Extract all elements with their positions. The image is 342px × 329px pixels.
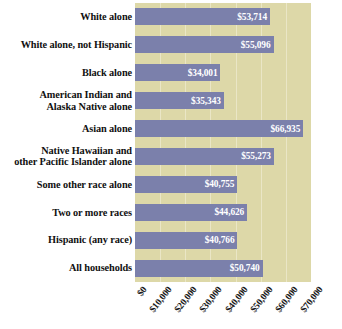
- category-label: Asian alone: [0, 123, 132, 134]
- category-label-line: White alone, not Hispanic: [0, 39, 132, 50]
- bar: $40,755: [135, 176, 237, 193]
- bar-value-label: $40,766: [205, 235, 235, 245]
- category-label-line: Some other race alone: [0, 179, 132, 190]
- category-label-line: Two or more races: [0, 207, 132, 218]
- chart-row: Native Hawaiian andother Pacific Islande…: [0, 143, 342, 171]
- x-tick-label: $0: [134, 284, 148, 298]
- x-tick-label: $40,000: [222, 284, 249, 314]
- x-tick-label: $30,000: [197, 284, 224, 314]
- bar: $55,096: [135, 36, 274, 53]
- bar-value-label: $35,343: [191, 96, 221, 106]
- bar-value-label: $50,740: [230, 263, 260, 273]
- bar: $50,740: [135, 260, 263, 277]
- category-label: Two or more races: [0, 207, 132, 218]
- category-label: All households: [0, 262, 132, 273]
- chart-row: Some other race alone$40,755: [0, 170, 342, 198]
- category-label-line: Hispanic (any race): [0, 234, 132, 245]
- x-tick-label: $50,000: [247, 284, 274, 314]
- chart-row: White alone$53,714: [0, 3, 342, 31]
- bar-chart: Median Household Income by Race and Hisp…: [0, 0, 342, 329]
- x-tick-label: $70,000: [298, 284, 325, 314]
- bar-value-label: $55,096: [241, 40, 271, 50]
- bar: $55,273: [135, 148, 274, 165]
- category-label-line: other Pacific Islander alone: [0, 156, 132, 167]
- category-label-line: American Indian and: [0, 89, 132, 100]
- bar: $44,626: [135, 204, 247, 221]
- bar-value-label: $66,935: [271, 124, 301, 134]
- chart-row: Black alone$34,001: [0, 59, 342, 87]
- chart-row: Two or more races$44,626: [0, 198, 342, 226]
- chart-row: White alone, not Hispanic$55,096: [0, 31, 342, 59]
- chart-row: American Indian andAlaska Native alone$3…: [0, 87, 342, 115]
- category-label: Black alone: [0, 67, 132, 78]
- category-label-line: Asian alone: [0, 123, 132, 134]
- category-label-line: Alaska Native alone: [0, 101, 132, 112]
- chart-row: Hispanic (any race)$40,766: [0, 226, 342, 254]
- x-axis: $0$10,000$20,000$30,000$40,000$50,000$60…: [135, 282, 311, 329]
- bar: $53,714: [135, 8, 270, 25]
- category-label-line: Black alone: [0, 67, 132, 78]
- chart-row: Asian alone$66,935: [0, 115, 342, 143]
- category-label-line: All households: [0, 262, 132, 273]
- bar-value-label: $53,714: [237, 12, 267, 22]
- bar: $34,001: [135, 64, 220, 81]
- x-tick-label: $60,000: [273, 284, 300, 314]
- x-tick-label: $10,000: [147, 284, 174, 314]
- category-label: White alone: [0, 11, 132, 22]
- x-tick-label: $20,000: [172, 284, 199, 314]
- category-label-line: White alone: [0, 11, 132, 22]
- category-label: American Indian andAlaska Native alone: [0, 89, 132, 112]
- bar-value-label: $44,626: [214, 207, 244, 217]
- category-label-line: Native Hawaiian and: [0, 145, 132, 156]
- bar: $35,343: [135, 92, 224, 109]
- chart-row: All households$50,740: [0, 254, 342, 282]
- bar: $40,766: [135, 232, 237, 249]
- bar: $66,935: [135, 120, 303, 137]
- bar-value-label: $40,755: [205, 179, 235, 189]
- category-label: Some other race alone: [0, 179, 132, 190]
- category-label: Native Hawaiian andother Pacific Islande…: [0, 145, 132, 168]
- category-label: White alone, not Hispanic: [0, 39, 132, 50]
- bar-value-label: $34,001: [188, 68, 218, 78]
- bar-value-label: $55,273: [241, 151, 271, 161]
- category-label: Hispanic (any race): [0, 234, 132, 245]
